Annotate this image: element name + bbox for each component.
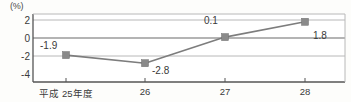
data-point-label-3: 1.8 xyxy=(313,30,327,41)
line-chart: (%) 2 0 -2 -4 -1.9 -2.8 0.1 1.8 平成 25年度 … xyxy=(0,0,351,102)
data-point-marker-2 xyxy=(222,34,229,41)
x-axis-tick-label-3: 28 xyxy=(285,86,325,97)
data-point-label-0: -1.9 xyxy=(40,40,57,51)
data-point-marker-1 xyxy=(142,60,149,67)
data-point-marker-3 xyxy=(302,18,309,25)
x-axis-tick-label-1: 26 xyxy=(125,86,165,97)
plot-background xyxy=(33,14,345,82)
x-axis-tick-label-2: 27 xyxy=(205,86,245,97)
data-point-marker-0 xyxy=(63,52,70,59)
data-point-label-2: 0.1 xyxy=(204,15,218,26)
x-axis-tick-label-0: 平成 25年度 xyxy=(28,86,104,100)
data-point-label-1: -2.8 xyxy=(152,65,169,76)
